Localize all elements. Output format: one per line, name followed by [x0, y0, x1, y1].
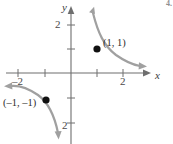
- x-axis: [6, 69, 151, 77]
- point-label-upper: (1, 1): [103, 38, 126, 49]
- y-tick-label-negative-2: 2: [62, 120, 68, 131]
- x-tick-negative-2-value: 2: [18, 75, 24, 87]
- y-axis: [67, 6, 75, 144]
- figure-number: 4.: [166, 0, 172, 8]
- curve-branch-lower: [4, 83, 62, 140]
- x-tick-label-positive-2: 2: [120, 76, 126, 87]
- coordinate-plane-svg: [0, 0, 173, 144]
- y-tick-label-positive-2: 2: [55, 19, 61, 30]
- y-axis-label: y: [62, 2, 67, 13]
- x-tick-label-negative-2: –2: [12, 76, 23, 87]
- point-1-1: [93, 45, 100, 52]
- point-label-lower: (–1, –1): [3, 98, 36, 109]
- graph-figure: y x 2 2 –2 2 (1, 1) (–1, –1) 4.: [0, 0, 173, 144]
- x-axis-label: x: [155, 70, 160, 81]
- point-neg1-neg1: [42, 96, 49, 103]
